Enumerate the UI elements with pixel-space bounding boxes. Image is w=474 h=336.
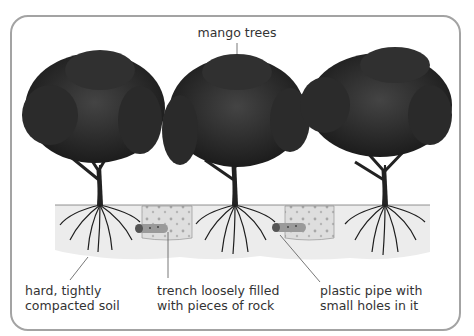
pipe-label-line-1: plastic pipe with <box>320 283 422 298</box>
trench-left <box>142 206 192 240</box>
soil-label: hard, tightly compacted soil <box>25 283 120 313</box>
trench-label-line-1: trench loosely filled <box>157 283 279 298</box>
pipe-left <box>135 224 168 233</box>
pipe-right <box>272 223 306 232</box>
pipe-label: plastic pipe with small holes in it <box>320 283 422 313</box>
trench-label: trench loosely filled with pieces of roc… <box>157 283 279 313</box>
trench-label-line-2: with pieces of rock <box>157 298 279 313</box>
soil-label-line-1: hard, tightly <box>25 283 120 298</box>
soil-pointer-line <box>70 257 88 280</box>
pipe-label-line-2: small holes in it <box>320 298 422 313</box>
soil-label-line-2: compacted soil <box>25 298 120 313</box>
